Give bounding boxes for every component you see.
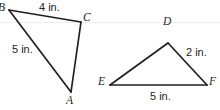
measure-label-ba: 5 in. bbox=[12, 44, 33, 55]
vertex-label-d: D bbox=[163, 16, 171, 28]
segment-de bbox=[110, 43, 168, 85]
segment-ca bbox=[71, 22, 81, 92]
vertex-label-f: F bbox=[209, 76, 216, 88]
vertex-label-e: E bbox=[98, 76, 105, 88]
vertex-label-b: B bbox=[0, 2, 5, 14]
geometry-figure: B C A 4 in. 5 in. D E F 2 in. 5 in. bbox=[0, 0, 220, 110]
measure-label-bc: 4 in. bbox=[39, 2, 60, 13]
measure-label-ef: 5 in. bbox=[150, 91, 171, 102]
measure-label-df: 2 in. bbox=[186, 47, 207, 58]
vertex-label-c: C bbox=[83, 12, 91, 24]
vertex-label-a: A bbox=[66, 95, 73, 107]
